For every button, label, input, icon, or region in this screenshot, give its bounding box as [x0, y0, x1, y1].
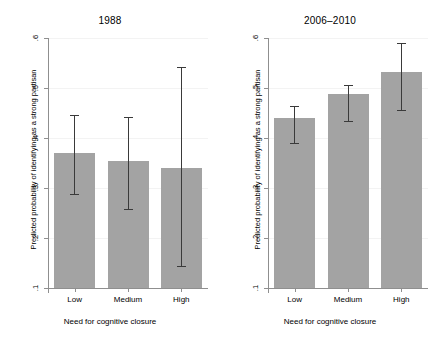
y-axis-tick-label: .5 — [252, 81, 260, 95]
error-bar-line — [181, 67, 182, 267]
error-bar-line — [74, 115, 75, 194]
error-bar-cap-lower — [290, 143, 299, 144]
x-axis-category-label: Medium — [320, 295, 376, 304]
y-axis-tick-label: .1 — [32, 281, 40, 295]
gridline — [49, 88, 208, 89]
x-axis-label: Need for cognitive closure — [0, 317, 220, 326]
x-axis-category-label: Low — [47, 295, 103, 304]
x-axis-category-label: High — [153, 295, 209, 304]
x-axis-tick — [401, 288, 402, 292]
y-axis-tick-label: .4 — [32, 131, 40, 145]
gridline — [49, 38, 208, 39]
error-bar-cap-upper — [290, 106, 299, 107]
plot-area: .6.5.4.3.2.1LowMediumHigh — [48, 33, 208, 293]
error-bar-cap-upper — [70, 115, 79, 116]
error-bar-line — [294, 106, 295, 143]
y-axis-tick-label: .2 — [252, 231, 260, 245]
x-axis-tick — [348, 288, 349, 292]
y-axis-tick-label: .3 — [252, 181, 260, 195]
error-bar-cap-lower — [344, 121, 353, 122]
error-bar-line — [128, 117, 129, 209]
y-axis-line — [268, 38, 269, 293]
panel-1988: 1988 Predicted probability of identifyin… — [0, 0, 220, 341]
y-axis-tick-label: .2 — [32, 231, 40, 245]
x-axis-tick — [75, 288, 76, 292]
error-bar-cap-upper — [124, 117, 133, 118]
x-axis-tick — [295, 288, 296, 292]
plot-area: .6.5.4.3.2.1LowMediumHigh — [268, 33, 428, 293]
error-bar-cap-upper — [344, 85, 353, 86]
panel-2006-2010: 2006–2010 Predicted probability of ident… — [220, 0, 440, 341]
x-axis-category-label: High — [373, 295, 429, 304]
error-bar-cap-upper — [397, 43, 406, 44]
x-axis-category-label: Medium — [100, 295, 156, 304]
error-bar-cap-lower — [124, 209, 133, 210]
error-bar-cap-lower — [177, 266, 186, 267]
bar — [328, 94, 369, 289]
error-bar-cap-lower — [70, 194, 79, 195]
y-axis-tick-label: .6 — [32, 31, 40, 45]
error-bar-line — [401, 43, 402, 110]
y-axis-tick-label: .1 — [252, 281, 260, 295]
figure-bar-chart-panels: 1988 Predicted probability of identifyin… — [0, 0, 440, 341]
x-axis-category-label: Low — [267, 295, 323, 304]
error-bar-cap-upper — [177, 67, 186, 68]
gridline — [269, 38, 428, 39]
error-bar-cap-lower — [397, 110, 406, 111]
y-axis-tick-label: .3 — [32, 181, 40, 195]
gridline — [49, 138, 208, 139]
error-bar-line — [348, 85, 349, 121]
x-axis-label: Need for cognitive closure — [220, 317, 440, 326]
y-axis-tick-label: .5 — [32, 81, 40, 95]
y-axis-line — [48, 38, 49, 293]
panel-title: 1988 — [0, 15, 220, 26]
y-axis-tick-label: .4 — [252, 131, 260, 145]
y-axis-tick-label: .6 — [252, 31, 260, 45]
x-axis-tick — [128, 288, 129, 292]
x-axis-tick — [181, 288, 182, 292]
panel-title: 2006–2010 — [220, 15, 440, 26]
